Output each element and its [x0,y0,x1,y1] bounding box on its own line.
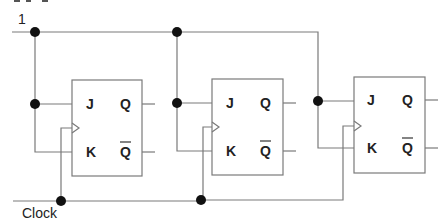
jk-flipflop-circuit: 1 J K Q Q J K Q Q J [0,0,448,224]
ff1-jk-feed-wire [35,32,72,152]
ff2-k-label: K [226,143,236,159]
clock-line-ff2 [203,127,212,200]
ff1-qbar-label: Q [120,144,131,160]
ff1-q-label: Q [120,96,131,112]
junction-dot [172,98,182,108]
ff1-k-label: K [86,144,96,160]
flip-flop-2: J K Q Q [212,79,296,175]
junction-dot [30,99,40,109]
junction-dot [56,196,66,206]
ff3-jk-feed-wire [318,101,354,148]
ff2-jk-feed-wire [177,32,212,151]
ff3-q-label: Q [402,92,413,108]
ff3-box [354,77,425,173]
clock-line-ff1 [61,128,72,201]
ff2-q-label: Q [260,95,271,111]
ff1-j-label: J [86,96,94,112]
top-text-fragment [14,0,48,2]
junction-dot [313,96,323,106]
ff3-k-label: K [367,140,377,156]
input-label: 1 [18,11,26,27]
ff2-qbar-label: Q [260,143,271,159]
ff3-j-label: J [367,92,375,108]
junction-dot [172,27,182,37]
junction-dot [196,195,206,205]
flip-flop-1: J K Q Q [72,80,155,176]
clock-label: Clock [22,205,58,221]
junction-dot [30,27,40,37]
ff1-box [72,80,142,176]
ff2-j-label: J [226,95,234,111]
ff3-qbar-label: Q [402,140,413,156]
ff2-box [212,79,283,175]
flip-flop-3: J K Q Q [354,77,438,173]
